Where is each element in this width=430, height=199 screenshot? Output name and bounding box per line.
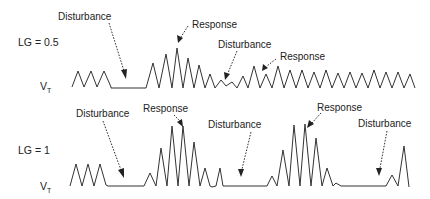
response-label: Response: [192, 19, 237, 30]
arrowhead-icon: [262, 64, 268, 71]
signal-label-subscript: T: [47, 87, 52, 94]
disturbance-arrow: [228, 51, 237, 73]
signal-label-subscript: T: [47, 187, 52, 194]
signal-label: VT: [40, 180, 52, 194]
response-arrow: [312, 113, 321, 123]
signal-label: VT: [40, 80, 52, 94]
arrowhead-icon: [177, 35, 183, 43]
response-arrow: [174, 115, 180, 121]
disturbance-label: Disturbance: [58, 11, 112, 22]
disturbance-label: Disturbance: [218, 39, 272, 50]
panel-lg-1: LG = 1 VT Disturbance Response Disturban…: [18, 102, 412, 194]
disturbance-arrow: [380, 131, 387, 168]
disturbance-label: Disturbance: [358, 118, 412, 129]
arrowhead-icon: [238, 169, 244, 177]
signal-label-main: V: [40, 180, 47, 192]
loop-gain-label: LG = 0.5: [18, 36, 59, 48]
waveform-trace: [70, 124, 409, 187]
disturbance-label: Disturbance: [208, 119, 262, 130]
response-label: Response: [280, 51, 325, 62]
response-arrow: [267, 59, 276, 66]
loop-gain-label: LG = 1: [18, 144, 50, 156]
panel-lg-0-5: LG = 0.5 VT Disturbance Response Disturb…: [18, 11, 415, 94]
disturbance-label: Disturbance: [76, 108, 130, 119]
signal-label-main: V: [40, 80, 47, 92]
arrowhead-icon: [376, 168, 382, 176]
waveform-trace: [72, 48, 415, 88]
response-label: Response: [317, 102, 362, 113]
response-label: Response: [143, 103, 188, 114]
disturbance-arrow: [103, 121, 121, 170]
response-arrow: [181, 26, 188, 37]
disturbance-arrow: [109, 23, 124, 71]
arrowhead-icon: [121, 69, 127, 79]
arrowhead-icon: [177, 119, 183, 127]
arrowhead-icon: [118, 168, 124, 178]
disturbance-arrow: [242, 132, 251, 169]
loop-gain-response-diagram: LG = 0.5 VT Disturbance Response Disturb…: [0, 0, 430, 199]
arrowhead-icon: [307, 120, 314, 128]
arrowhead-icon: [224, 72, 230, 80]
